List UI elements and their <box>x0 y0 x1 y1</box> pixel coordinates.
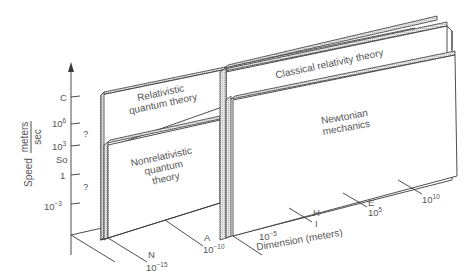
svg-text:meters: meters <box>19 122 30 153</box>
x-letter-n: N <box>148 249 155 260</box>
y-tick-c: C <box>60 92 67 103</box>
svg-text:sec: sec <box>32 129 43 145</box>
y-tick-1: 1 <box>60 170 65 181</box>
x-tick-1e5: 105 <box>368 206 383 218</box>
y-tick-1e-3: 10−3 <box>44 200 62 212</box>
question-mark-lower: ? <box>83 181 88 192</box>
y-tick-so: So <box>56 154 68 165</box>
svg-text:Speed: Speed <box>23 158 34 187</box>
y-axis-labels: C 106 103 So 1 10−3 ? ? Speed meters sec <box>19 92 88 212</box>
y-tick-1e6: 106 <box>52 117 67 129</box>
y-axis-title: Speed meters sec <box>19 121 43 187</box>
x-tick-1e-15: 10−15 <box>146 261 168 273</box>
x-tick-1e10: 1010 <box>422 193 440 205</box>
axis-arrow-icon <box>68 62 74 72</box>
question-mark-upper: ? <box>83 128 88 139</box>
physics-regimes-diagram: C 106 103 So 1 10−3 ? ? Speed meters sec… <box>0 0 472 276</box>
x-tick-1e-10: 10−10 <box>203 243 225 255</box>
x-letter-i: I <box>315 218 318 229</box>
x-letter-a: A <box>204 232 211 243</box>
y-tick-1e3: 103 <box>52 140 67 152</box>
x-letter-h: H <box>313 207 320 218</box>
